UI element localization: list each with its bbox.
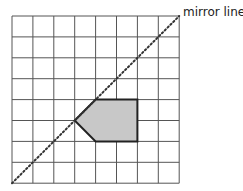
shaded-shape	[75, 100, 138, 142]
reflection-grid-diagram	[0, 0, 243, 191]
mirror-line-label: mirror line	[183, 5, 243, 19]
